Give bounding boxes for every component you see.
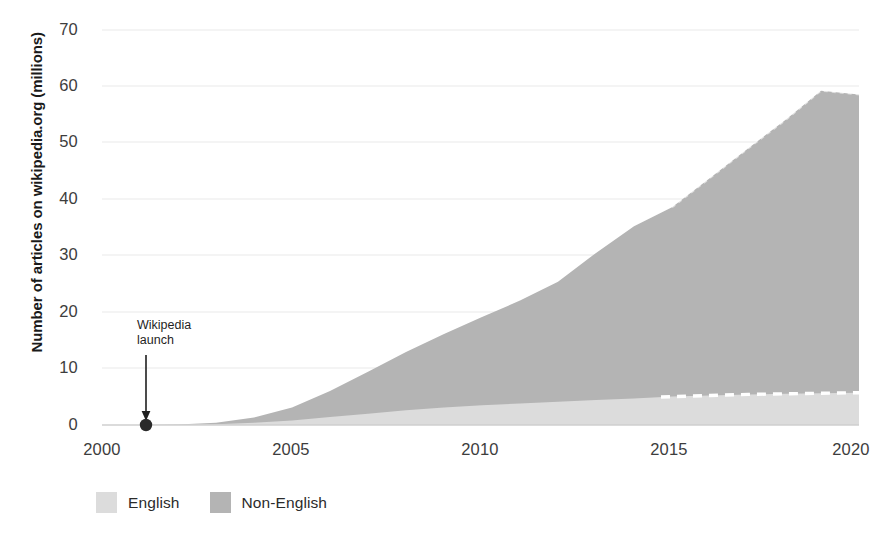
legend-swatch-non-english-icon [210, 492, 231, 513]
wikipedia-articles-area-chart: Number of articles on wikipedia.org (mil… [0, 0, 889, 542]
legend-item-non-english[interactable]: Non-English [210, 492, 328, 513]
x-tick-2020: 2020 [811, 440, 889, 459]
y-tick-60: 60 [32, 76, 78, 95]
wikipedia-launch-label: Wikipedia launch [137, 318, 191, 347]
launch-point-marker-icon [140, 419, 152, 431]
area-non-english [102, 91, 859, 425]
wikipedia-launch-annotation [140, 355, 152, 431]
y-tick-50: 50 [32, 132, 78, 151]
x-tick-2005: 2005 [251, 440, 331, 459]
y-tick-10: 10 [32, 358, 78, 377]
y-tick-20: 20 [32, 302, 78, 321]
x-tick-2010: 2010 [440, 440, 520, 459]
y-tick-0: 0 [32, 415, 78, 434]
legend-label-english: English [128, 494, 180, 512]
legend-label-non-english: Non-English [242, 494, 328, 512]
chart-canvas [0, 0, 889, 542]
y-tick-40: 40 [32, 189, 78, 208]
legend-swatch-english-icon [96, 492, 117, 513]
y-tick-70: 70 [32, 20, 78, 39]
legend: English Non-English [96, 492, 327, 513]
x-tick-2015: 2015 [629, 440, 709, 459]
x-tick-2000: 2000 [62, 440, 142, 459]
y-tick-30: 30 [32, 245, 78, 264]
legend-item-english[interactable]: English [96, 492, 180, 513]
